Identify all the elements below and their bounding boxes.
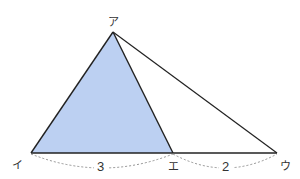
shaded-triangle-aie (31, 32, 173, 153)
vertex-label-e: エ (168, 160, 179, 173)
vertex-label-a: ア (108, 16, 119, 29)
length-label-ie: 3 (97, 159, 104, 174)
length-label-eu: 2 (222, 159, 229, 174)
vertex-label-u: ウ (280, 160, 291, 173)
vertex-label-i: イ (12, 159, 23, 172)
triangle-diagram: 3 2 ア イ エ ウ (0, 0, 300, 179)
